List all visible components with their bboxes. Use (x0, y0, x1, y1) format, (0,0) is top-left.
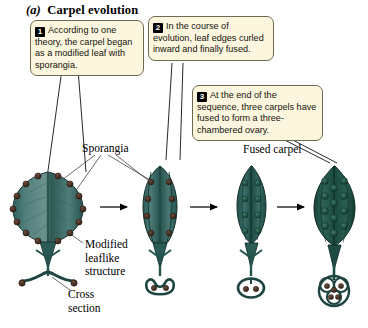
label-modified-leaflike-structure: Modified leaflike structure (85, 238, 128, 279)
carpel-evolution-figure: (a) Carpel evolution (0, 0, 368, 328)
stage-1-modified-leaf (10, 172, 86, 286)
callout-1-number: 1 (35, 27, 45, 37)
stage-3-fused-carpel (237, 166, 266, 298)
stage-4-three-chambered-ovary (314, 166, 355, 306)
stage-2-curling-leaf (143, 166, 177, 294)
callout-step-3: 3At the end of the sequence, three carpe… (192, 85, 323, 141)
callout-2-number: 2 (153, 23, 163, 33)
callout-3-text: At the end of the sequence, three carpel… (197, 90, 316, 135)
label-sporangia: Sporangia (82, 142, 129, 156)
callout-2-pointer-right (180, 63, 183, 160)
callout-1-pointer-right (78, 69, 86, 172)
label-cross-section: Cross section (68, 288, 101, 315)
stage-2-cross-section (146, 279, 173, 294)
callout-1-pointer-left (47, 69, 62, 178)
callout-1-text: According to one theory, the carpel bega… (35, 25, 132, 70)
callout-step-1: 1According to one theory, the carpel beg… (30, 20, 144, 76)
callout-2-text: In the course of evolution, leaf edges c… (153, 21, 264, 54)
stage-4-cross-section (319, 276, 349, 306)
label-fused-carpel: Fused carpel (243, 143, 301, 157)
callout-step-2: 2In the course of evolution, leaf edges … (148, 16, 274, 61)
callout-2-pointer-left (166, 63, 172, 160)
callout-3-number: 3 (197, 92, 207, 102)
stage-3-cross-section (238, 279, 264, 298)
